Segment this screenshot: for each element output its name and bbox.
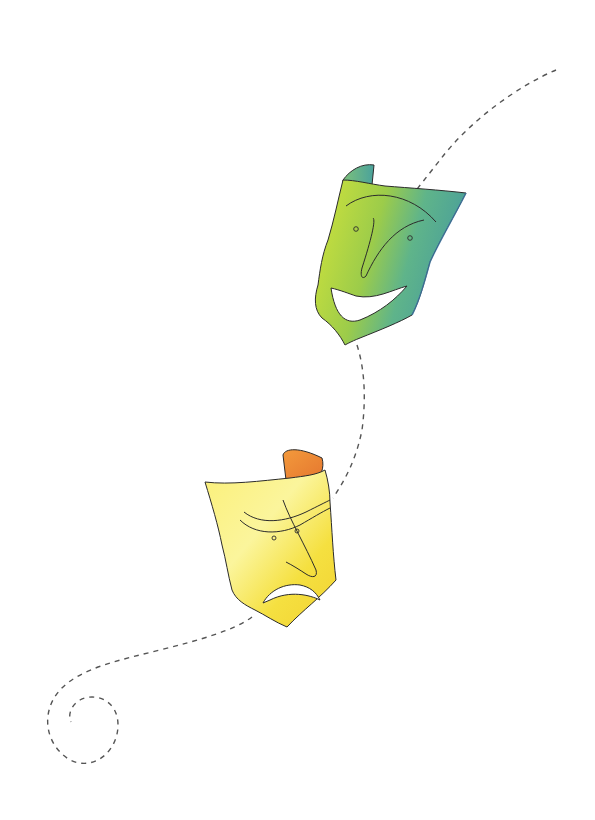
tragedy-mask <box>205 450 336 627</box>
dashed-path <box>48 70 556 763</box>
illustration-canvas <box>0 0 595 820</box>
comedy-mask <box>315 165 466 345</box>
